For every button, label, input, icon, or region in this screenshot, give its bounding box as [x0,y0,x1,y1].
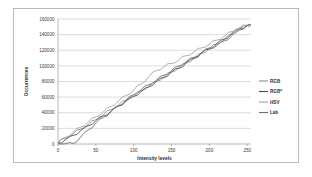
line-chart: 0200004000060000800001000001200001400001… [14,9,300,164]
x-tick-label: 200 [206,148,214,153]
y-tick-label: 140000 [39,32,55,37]
x-tick-label: 50 [93,148,99,153]
x-tick-label: 0 [57,148,60,153]
y-tick-label: 80000 [42,79,55,84]
legend-label-rgb-star: RGB* [270,89,282,94]
legend-label-hsv: HSV [270,100,280,105]
chart-frame: 0200004000060000800001000001200001400001… [13,8,299,163]
y-tick-label: 160000 [39,17,55,22]
chart-plot-area: 0200004000060000800001000001200001400001… [14,9,300,164]
x-tick-label: 100 [130,148,138,153]
y-tick-label: 60000 [42,95,55,100]
x-tick-label: 250 [243,148,251,153]
legend-label-rgb: RGB [270,79,281,84]
y-tick-label: 100000 [39,64,55,69]
series-line-rgb [58,25,251,143]
x-axis-title: Intensity levels [137,156,172,161]
y-tick-label: 20000 [42,126,55,131]
legend-label-lab: Lab [270,110,278,115]
y-tick-label: 0 [52,142,55,147]
y-tick-label: 40000 [42,110,55,115]
x-tick-label: 150 [168,148,176,153]
y-tick-label: 120000 [39,48,55,53]
y-axis-title: Occurrences [24,67,29,97]
